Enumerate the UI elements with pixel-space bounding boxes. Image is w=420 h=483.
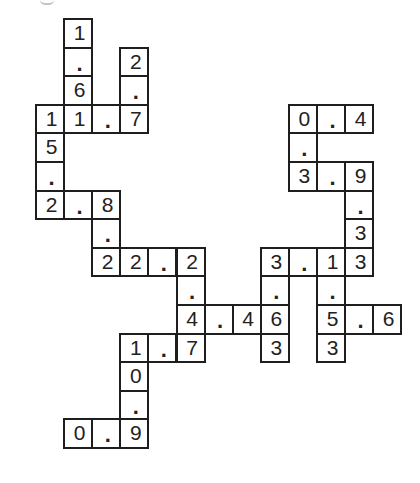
digit-cell: 5 <box>35 132 65 163</box>
digit-cell: 7 <box>119 104 149 135</box>
decimal-point-cell: . <box>63 190 93 221</box>
digit-cell: 1 <box>35 104 65 135</box>
decimal-point-cell: . <box>344 304 374 335</box>
digit-cell: 0 <box>63 418 93 449</box>
decimal-point-cell: . <box>204 304 234 335</box>
digit-cell: 1 <box>119 333 149 364</box>
digit-cell: 9 <box>119 418 149 449</box>
digit-cell: 1 <box>63 104 93 135</box>
digit-cell: 3 <box>344 247 374 278</box>
digit-cell: 6 <box>260 304 290 335</box>
digit-cell: 4 <box>232 304 262 335</box>
decimal-point-cell: . <box>91 418 121 449</box>
digit-cell: 2 <box>119 247 149 278</box>
decimal-point-cell: . <box>316 104 346 135</box>
digit-cell: 3 <box>316 333 346 364</box>
decimal-point-cell: . <box>119 75 149 106</box>
digit-cell: 6 <box>372 304 402 335</box>
decimal-point-cell: . <box>288 132 318 163</box>
decimal-point-cell: . <box>147 247 177 278</box>
number-crossword-grid: 1.62.11.75.2.8.22.2.4.461.70.0.90.4.3.9.… <box>0 0 420 483</box>
digit-cell: 5 <box>316 304 346 335</box>
decimal-point-cell: . <box>35 161 65 192</box>
digit-cell: 3 <box>260 333 290 364</box>
digit-cell: 6 <box>63 75 93 106</box>
decimal-point-cell: . <box>260 275 290 306</box>
digit-cell: 1 <box>63 18 93 49</box>
digit-cell: 4 <box>176 304 206 335</box>
digit-cell: 8 <box>91 190 121 221</box>
digit-cell: 4 <box>344 104 374 135</box>
digit-cell: 1 <box>316 247 346 278</box>
digit-cell: 3 <box>288 161 318 192</box>
decimal-point-cell: . <box>91 104 121 135</box>
digit-cell: 0 <box>119 361 149 392</box>
decimal-point-cell: . <box>316 275 346 306</box>
digit-cell: 2 <box>35 190 65 221</box>
digit-cell: 3 <box>260 247 290 278</box>
digit-cell: 2 <box>91 247 121 278</box>
digit-cell: 3 <box>344 218 374 249</box>
digit-cell: 9 <box>344 161 374 192</box>
decimal-point-cell: . <box>119 390 149 421</box>
decimal-point-cell: . <box>316 161 346 192</box>
digit-cell: 2 <box>119 47 149 78</box>
decimal-point-cell: . <box>288 247 318 278</box>
decimal-point-cell: . <box>63 47 93 78</box>
digit-cell: 0 <box>288 104 318 135</box>
decimal-point-cell: . <box>176 275 206 306</box>
cropped-heading-glyph <box>40 0 54 5</box>
decimal-point-cell: . <box>91 218 121 249</box>
digit-cell: 2 <box>176 247 206 278</box>
digit-cell: 7 <box>176 333 206 364</box>
decimal-point-cell: . <box>147 333 177 364</box>
decimal-point-cell: . <box>344 190 374 221</box>
